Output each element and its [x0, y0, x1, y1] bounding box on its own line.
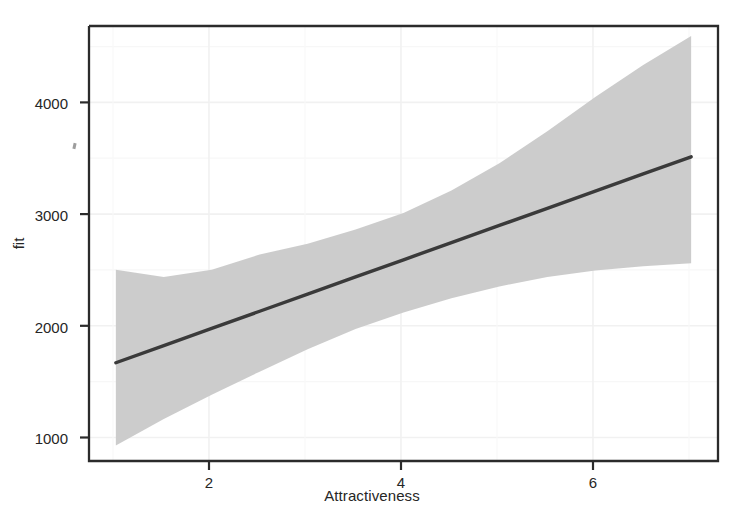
regression-plot-canvas [0, 0, 744, 522]
chart-figure: 4000 3000 2000 1000 2 4 6 Attractiveness… [0, 0, 744, 522]
x-axis-title: Attractiveness [0, 487, 744, 504]
y-axis-title: fit [10, 204, 27, 284]
y-axis-title-wrapper: fit [0, 0, 40, 522]
